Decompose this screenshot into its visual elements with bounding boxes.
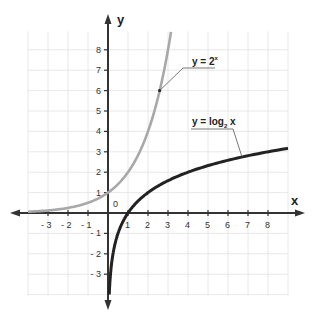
x-tick-label: 8 [265, 220, 270, 230]
y-tick-label: 3 [96, 147, 101, 157]
grid-lines [28, 31, 288, 295]
x-tick-label: - 2 [61, 220, 72, 230]
y-axis-arrow-up-icon [105, 14, 112, 24]
y-axis-label: y [117, 12, 125, 27]
label-log2: y = log2 x [192, 116, 236, 129]
x-tick-label: 3 [165, 220, 170, 230]
y-tick-label: 8 [96, 45, 101, 55]
y-tick-label: 4 [96, 126, 101, 136]
x-tick-label: 7 [245, 220, 250, 230]
function-graph: - 3- 2- 112345678- 3- 2- 112345678 y = 2… [0, 0, 315, 324]
callout-line-log2 [191, 129, 242, 157]
origin-label: 0 [113, 199, 118, 209]
y-tick-label: - 1 [90, 228, 101, 238]
y-tick-label: 5 [96, 106, 101, 116]
axis-ticks: - 3- 2- 112345678- 3- 2- 112345678 [41, 45, 270, 279]
x-tick-label: 2 [145, 220, 150, 230]
y-tick-label: 7 [96, 65, 101, 75]
y-tick-label: - 2 [90, 249, 101, 259]
curves [28, 32, 288, 295]
label-exp2: y = 2x [192, 55, 219, 67]
curve-exp2 [28, 32, 171, 212]
y-axis-arrow-down-icon [105, 300, 112, 310]
y-tick-label: 2 [96, 167, 101, 177]
x-tick-label: 5 [205, 220, 210, 230]
curve-log2 [109, 148, 288, 294]
x-tick-label: 6 [225, 220, 230, 230]
y-tick-label: - 3 [90, 269, 101, 279]
y-tick-label: 6 [96, 86, 101, 96]
x-axis-arrow-right-icon [295, 210, 305, 217]
axes [10, 14, 305, 310]
x-axis-label: x [291, 193, 299, 208]
x-tick-label: - 3 [41, 220, 52, 230]
x-axis-arrow-left-icon [10, 210, 20, 217]
x-tick-label: 1 [125, 220, 130, 230]
x-tick-label: 4 [185, 220, 190, 230]
